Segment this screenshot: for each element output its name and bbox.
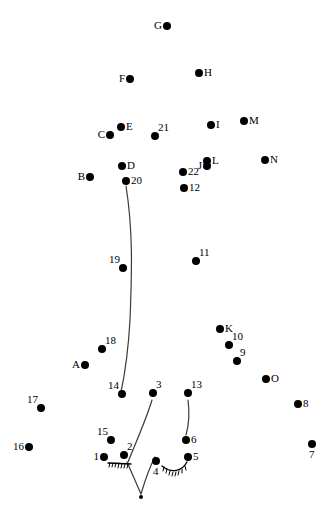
hatched-arc-left [108,463,131,464]
point-label-19: 19 [109,254,120,265]
hatch-tick [124,464,125,468]
dot-marker [25,443,33,451]
dot-marker [118,390,126,398]
dot-marker [216,325,224,333]
dot-marker [182,436,190,444]
hatched-arc-right [162,462,187,471]
dot-marker [308,440,316,448]
dot-marker [120,451,128,459]
dot-marker [81,361,89,369]
dot-marker [180,184,188,192]
dot-marker [195,69,203,77]
point-label-H: H [204,67,212,78]
dot-marker [207,121,215,129]
dot-marker [98,345,106,353]
dot-marker [139,495,143,499]
point-label-15: 15 [97,426,108,437]
dot-marker [151,132,159,140]
point-label-9: 9 [240,347,246,358]
point-label-B: B [78,171,85,182]
dot-marker [119,264,127,272]
dot-marker [117,123,125,131]
dot-marker [179,168,187,176]
point-label-8: 8 [303,398,309,409]
point-label-5: 5 [193,451,199,462]
stroke-layer [0,0,334,518]
point-label-F: F [119,73,125,84]
point-label-C: C [98,129,105,140]
hatch-ticks-left [109,463,128,468]
dot-marker [106,131,114,139]
point-label-18: 18 [105,335,116,346]
point-label-N: N [270,154,278,165]
hatch-tick [166,469,167,473]
point-label-13: 13 [191,379,202,390]
point-label-L: L [212,155,219,166]
dot-marker [122,177,130,185]
spine-curve-stroke [121,186,131,392]
point-label-10: 10 [232,331,243,342]
point-label-3: 3 [156,379,162,390]
hatch-tick [118,463,119,468]
hatch-tick [112,463,113,467]
point-label-I: I [216,119,220,130]
point-label-O: O [271,373,279,384]
dot-marker [203,162,211,170]
hatch-tick [109,463,110,467]
point-label-12: 12 [189,182,200,193]
point-label-4: 4 [153,466,159,477]
dot-marker [152,457,160,465]
point-label-2: 2 [127,441,133,452]
line-3-to-2-stroke [128,400,152,462]
hatch-tick [172,472,173,476]
point-label-21: 21 [158,122,169,133]
dot-marker [126,75,134,83]
hatch-tick [127,464,128,468]
dot-marker [192,257,200,265]
hatch-tick [185,466,186,470]
dot-marker [107,436,115,444]
point-label-22: 22 [188,166,199,177]
hatch-tick [163,467,164,471]
dot-marker [86,173,94,181]
point-label-16: 16 [13,441,24,452]
point-label-20: 20 [131,175,142,186]
dot-marker [100,453,108,461]
dot-marker [262,375,270,383]
hatch-tick [121,464,122,468]
dot-marker [294,400,302,408]
point-label-G: G [154,20,162,31]
dot-marker [184,389,192,397]
hatch-tick [169,471,170,475]
dot-marker [240,117,248,125]
line-13-to-6-stroke [186,400,189,435]
point-label-11: 11 [199,247,210,258]
point-label-14: 14 [108,380,119,391]
connect-the-dots-figure: GFHIMEC21LJNDB2022121119K10918AO14313817… [0,0,334,518]
dot-marker [261,156,269,164]
point-label-E: E [126,121,133,132]
dot-marker [118,162,126,170]
point-label-6: 6 [191,434,197,445]
dot-marker [163,22,171,30]
point-label-M: M [249,115,259,126]
point-label-D: D [127,160,135,171]
hatch-tick [178,471,179,475]
dot-marker [37,404,45,412]
hatch-tick [175,472,176,476]
dot-marker [233,357,241,365]
hatch-ticks-right [163,466,186,476]
point-label-A: A [72,359,80,370]
point-label-7: 7 [309,449,315,460]
line-2-to-vertex-stroke [127,462,141,494]
hatch-tick [115,463,116,467]
dot-marker [184,453,192,461]
point-label-1: 1 [94,451,100,462]
dot-marker [225,341,233,349]
dot-marker [149,389,157,397]
point-label-17: 17 [27,394,38,405]
